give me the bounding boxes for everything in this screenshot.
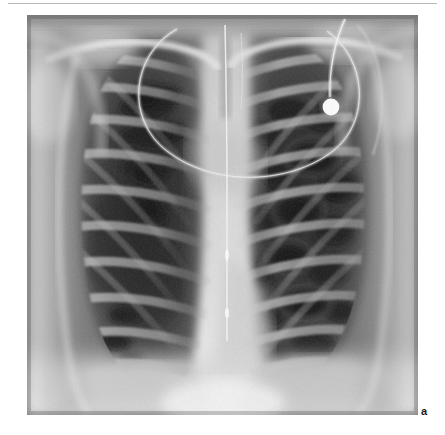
figure-panel-a: a bbox=[0, 0, 445, 435]
figure-part-label: a bbox=[421, 405, 427, 417]
chest-xray-image bbox=[27, 15, 418, 415]
radiograph-canvas bbox=[27, 15, 418, 415]
film-grain-fine bbox=[27, 15, 418, 415]
page-root: a bbox=[0, 0, 445, 435]
